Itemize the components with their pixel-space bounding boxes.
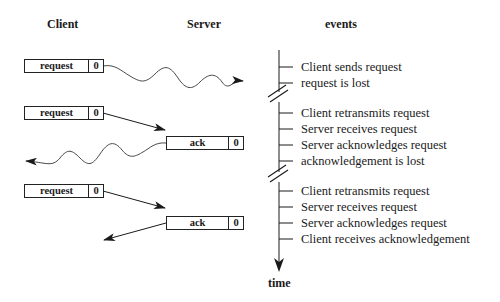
request-packet: request 0 [24, 184, 104, 198]
packet-seq: 0 [89, 185, 103, 197]
packet-seq: 0 [229, 217, 243, 229]
event-label: Client sends request [301, 60, 402, 74]
lost-ack-wavy-arrow [26, 143, 166, 164]
event-label: Server receives request [301, 122, 417, 136]
packet-label: request [25, 60, 89, 72]
event-label: request is lost [301, 76, 370, 90]
packet-seq: 0 [89, 60, 103, 72]
ack-arrow [104, 223, 166, 240]
event-label: Server acknowledges request [301, 138, 447, 152]
packet-label: request [25, 185, 89, 197]
event-label: Server receives request [301, 200, 417, 214]
ack-packet: ack 0 [166, 136, 244, 150]
event-label: acknowledgement is lost [301, 154, 425, 168]
time-axis-label: time [268, 276, 291, 291]
request-arrow [103, 191, 165, 208]
event-label: Client retransmits request [301, 184, 429, 198]
packet-seq: 0 [229, 137, 243, 149]
lost-request-wavy-arrow [103, 66, 243, 88]
timeline-axis [268, 50, 293, 272]
request-packet: request 0 [24, 106, 104, 120]
event-label: Client receives acknowledgement [301, 232, 470, 246]
event-label: Server acknowledges request [301, 216, 447, 230]
packet-label: ack [167, 217, 229, 229]
request-packet: request 0 [24, 59, 104, 73]
request-arrow [103, 113, 165, 130]
ack-packet: ack 0 [166, 216, 244, 230]
packet-label: request [25, 107, 89, 119]
event-label: Client retransmits request [301, 106, 429, 120]
packet-label: ack [167, 137, 229, 149]
packet-seq: 0 [89, 107, 103, 119]
